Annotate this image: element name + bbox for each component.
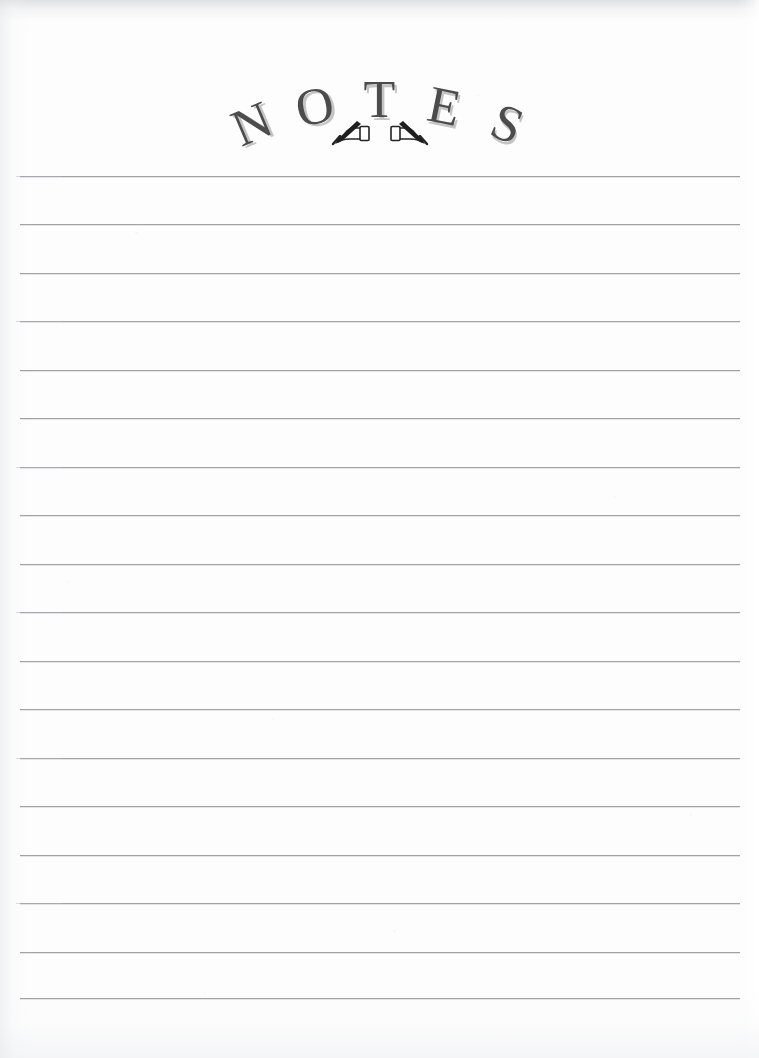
rule-line[interactable] xyxy=(20,273,740,274)
rule-line[interactable] xyxy=(20,515,740,516)
rule-line[interactable] xyxy=(20,418,740,419)
rule-line[interactable] xyxy=(20,758,740,759)
rule-line[interactable] xyxy=(20,176,740,177)
rule-line[interactable] xyxy=(20,806,740,807)
rule-line[interactable] xyxy=(20,612,740,613)
rule-line[interactable] xyxy=(20,564,740,565)
rule-line[interactable] xyxy=(20,661,740,662)
rule-line[interactable] xyxy=(20,467,740,468)
notes-page: NOTES xyxy=(0,0,759,1058)
ruled-lines xyxy=(0,0,759,1058)
rule-line[interactable] xyxy=(20,370,740,371)
rule-line[interactable] xyxy=(20,998,740,999)
rule-line[interactable] xyxy=(20,855,740,856)
rule-line[interactable] xyxy=(20,952,740,953)
rule-line[interactable] xyxy=(20,321,740,322)
rule-line[interactable] xyxy=(20,709,740,710)
rule-line[interactable] xyxy=(20,903,740,904)
rule-line[interactable] xyxy=(20,224,740,225)
